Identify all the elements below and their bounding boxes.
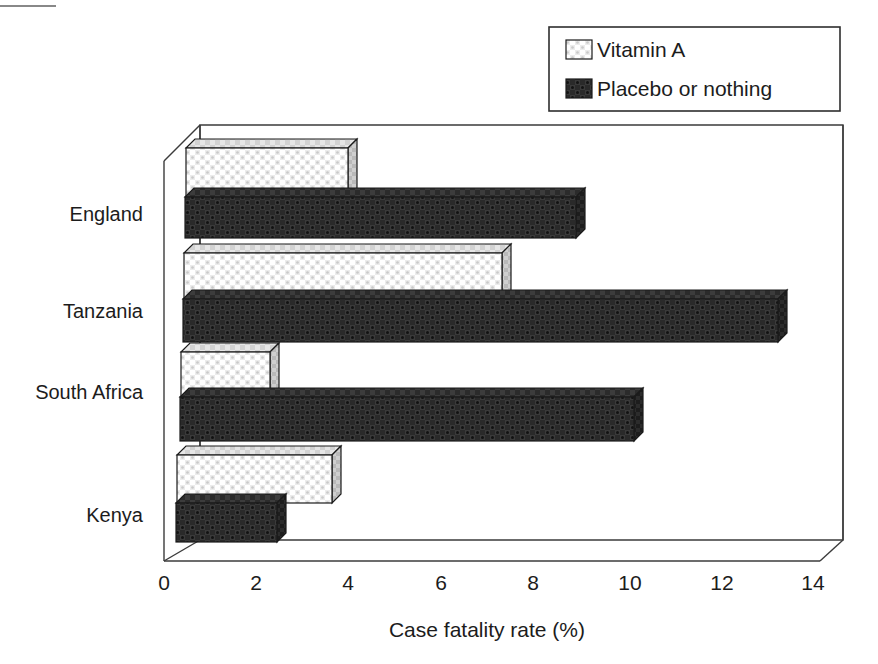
legend-swatch-placebo-icon: [566, 79, 592, 98]
bar-tanzania-placebo: [183, 290, 787, 342]
x-axis-title: Case fatality rate (%): [389, 618, 585, 641]
x-tick-label-4: 4: [342, 571, 354, 594]
category-label-england: England: [70, 203, 143, 225]
x-tick-label-2: 2: [250, 571, 262, 594]
x-tick-label-6: 6: [435, 571, 447, 594]
chart-container: England Tanzania South Africa Kenya 0 2 …: [0, 0, 878, 664]
bar-england-placebo: [185, 188, 585, 238]
legend-label-vitamin-a: Vitamin A: [597, 38, 685, 61]
category-label-south-africa: South Africa: [35, 381, 144, 403]
category-label-kenya: Kenya: [86, 504, 144, 526]
x-tick-label-10: 10: [618, 571, 641, 594]
x-tick-label-8: 8: [527, 571, 539, 594]
x-tick-label-12: 12: [710, 571, 733, 594]
legend-swatch-vitamin-a-icon: [566, 40, 592, 59]
legend-label-placebo: Placebo or nothing: [597, 77, 772, 100]
bar-kenya-placebo: [176, 494, 286, 542]
chart-legend: Vitamin A Placebo or nothing: [549, 27, 840, 111]
x-tick-label-0: 0: [158, 571, 170, 594]
x-tick-label-14: 14: [801, 571, 825, 594]
bar-south-africa-placebo: [180, 388, 643, 441]
case-fatality-rate-bar-chart: England Tanzania South Africa Kenya 0 2 …: [0, 0, 878, 664]
category-label-tanzania: Tanzania: [63, 300, 144, 322]
